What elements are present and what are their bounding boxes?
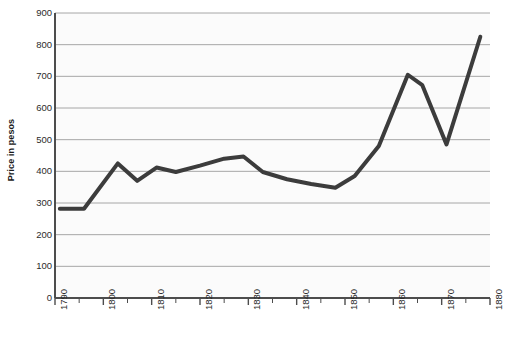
plot-background — [55, 13, 490, 298]
chart-container: 0100200300400500600700800900 17901800181… — [0, 0, 506, 346]
line-chart-plot — [0, 0, 506, 346]
